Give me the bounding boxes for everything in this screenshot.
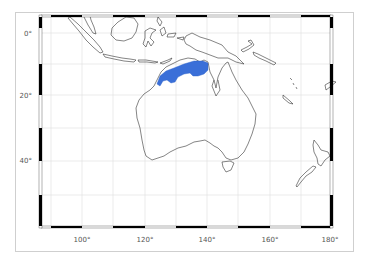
lat-label-0: 0° — [24, 30, 32, 38]
lon-label-120: 120° — [137, 236, 154, 244]
map-area — [41, 16, 331, 227]
lon-label-180: 180° — [322, 236, 339, 244]
lon-label-160: 160° — [262, 236, 279, 244]
lat-label-20: 20° — [20, 92, 32, 100]
lon-label-100: 100° — [74, 236, 91, 244]
range-map: 0° 20° 40° 100° 120° 140° 160° 180° — [0, 0, 370, 266]
lon-label-140: 140° — [199, 236, 216, 244]
lat-label-40: 40° — [20, 157, 32, 165]
